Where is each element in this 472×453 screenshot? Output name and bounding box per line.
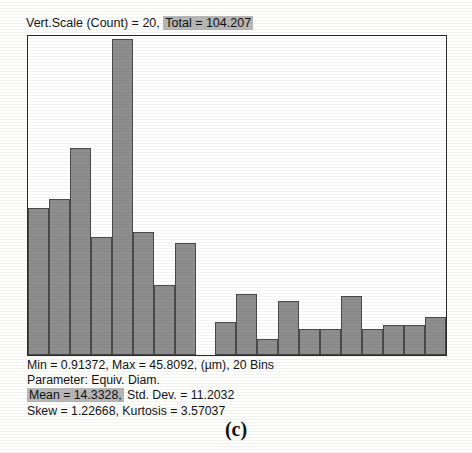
histogram-bar bbox=[383, 325, 404, 355]
histogram-bar bbox=[362, 329, 383, 355]
histogram-bar bbox=[320, 329, 341, 355]
histogram-bar bbox=[154, 285, 175, 355]
histogram-bar bbox=[215, 322, 236, 355]
histogram-bar bbox=[70, 148, 91, 355]
total-highlight: Total = 104.207 bbox=[163, 16, 253, 30]
histogram-bar bbox=[257, 339, 278, 355]
statistics-block: Min = 0.91372, Max = 45.8092, (µm), 20 B… bbox=[27, 358, 457, 419]
mean-highlight: Mean = 14.3328, bbox=[27, 388, 124, 402]
chart-header: Vert.Scale (Count) = 20, Total = 104.207 bbox=[26, 14, 446, 32]
histogram-figure: Vert.Scale (Count) = 20, Total = 104.207… bbox=[0, 0, 472, 453]
histogram-bar bbox=[299, 329, 320, 355]
stats-minmax-row: Min = 0.91372, Max = 45.8092, (µm), 20 B… bbox=[27, 358, 457, 373]
histogram-bar bbox=[341, 296, 362, 355]
histogram-plot-area bbox=[27, 35, 447, 356]
histogram-bar bbox=[91, 237, 112, 355]
stats-parameter-row: Parameter: Equiv. Diam. bbox=[27, 373, 457, 388]
stats-mean-row: Mean = 14.3328, Std. Dev. = 11.2032 bbox=[27, 388, 457, 403]
figure-caption: (c) bbox=[0, 418, 472, 441]
stats-skew-row: Skew = 1.22668, Kurtosis = 3.57037 bbox=[27, 404, 457, 419]
histogram-bar bbox=[133, 232, 154, 355]
std-dev-text: Std. Dev. = 11.2032 bbox=[124, 388, 235, 402]
histogram-bar bbox=[112, 39, 133, 355]
histogram-bar bbox=[49, 199, 70, 355]
vert-scale-label: Vert.Scale (Count) = 20, bbox=[26, 16, 160, 30]
histogram-bar bbox=[425, 317, 446, 355]
histogram-bar bbox=[175, 243, 196, 355]
histogram-bar bbox=[278, 301, 299, 355]
histogram-bar bbox=[28, 208, 49, 355]
histogram-bars bbox=[28, 36, 446, 355]
histogram-bar bbox=[404, 325, 425, 355]
histogram-bar bbox=[236, 294, 257, 355]
